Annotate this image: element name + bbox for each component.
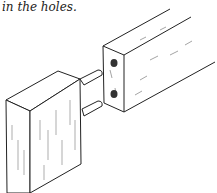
dowel-hole	[111, 90, 118, 98]
post	[6, 71, 81, 193]
rail	[103, 9, 217, 112]
dowel	[82, 101, 102, 116]
rail-end-face	[103, 46, 124, 112]
dowels	[80, 70, 102, 116]
dowel	[80, 70, 102, 85]
dowel-joint-illustration	[0, 0, 217, 193]
dowel-hole	[111, 59, 118, 67]
